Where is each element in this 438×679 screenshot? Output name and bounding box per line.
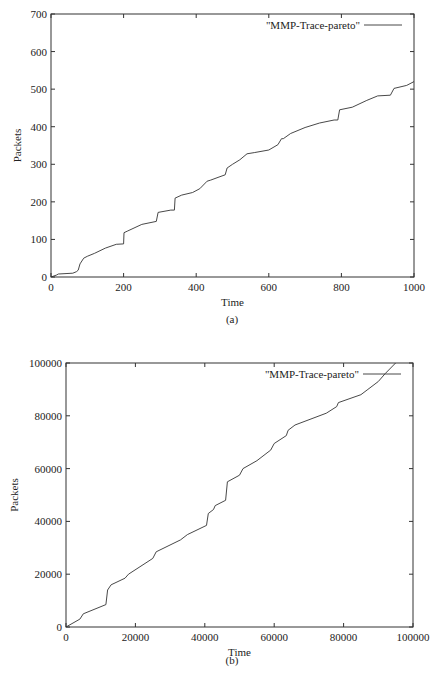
y-tick-label: 20000 [35, 568, 63, 580]
y-tick-label: 0 [57, 621, 63, 633]
y-tick-label: 100000 [29, 357, 63, 369]
y-tick-label: 80000 [35, 410, 63, 422]
x-tick-label: 100000 [397, 631, 431, 643]
legend-label: "MMP-Trace-pareto" [265, 368, 359, 380]
x-tick-label: 80000 [330, 631, 358, 643]
x-tick-label: 20000 [122, 631, 150, 643]
plot-frame [66, 363, 413, 627]
x-tick-label: 40000 [191, 631, 219, 643]
data-line [66, 363, 396, 627]
caption-b: (b) [212, 654, 252, 666]
y-tick-label: 60000 [35, 463, 63, 475]
y-axis-label: Packets [8, 478, 20, 512]
chart-panel-b: 0200004000060000800001000000200004000060… [0, 0, 438, 679]
x-tick-label: 60000 [260, 631, 288, 643]
x-tick-label: 0 [63, 631, 69, 643]
plot-area-b: 0200004000060000800001000000200004000060… [0, 0, 438, 679]
y-tick-label: 40000 [35, 515, 63, 527]
